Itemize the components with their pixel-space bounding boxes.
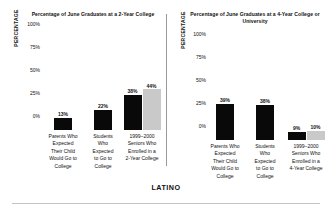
bar-group-left-students: 22% [86, 37, 120, 130]
bar-wrap: 22% [94, 103, 112, 130]
bar-group-left-parents: 13% [46, 37, 80, 130]
bar-wrap: 13% [54, 111, 72, 130]
bar-value-label: 13% [58, 111, 68, 117]
y-tick-left-100: 100% [18, 21, 40, 27]
bar-parents-2yr [54, 118, 72, 130]
panel-divider [166, 14, 167, 166]
chart-panel-2-year-college: Percentage of June Graduates at a 2-Year… [0, 0, 166, 182]
chart-title-left: Percentage of June Graduates at a 2-Year… [26, 11, 160, 18]
chart-title-right: Percentage of June Graduates at a 4-Year… [182, 11, 328, 25]
bar-seniors-enrolled-2yr-secondary [143, 89, 161, 130]
category-label-left-parents: Parents Who Expected Their Child Would G… [42, 133, 84, 170]
category-label-left-seniors: 1999–2000 Seniors Who Enrolled in a 2-Ye… [120, 133, 164, 163]
y-tick-left-75: 75% [18, 44, 40, 50]
bar-seniors-enrolled-2yr [124, 95, 142, 130]
y-tick-left-25: 25% [18, 90, 40, 96]
figure-latino-college-enrollment: Percentage of June Graduates at a 2-Year… [0, 0, 332, 214]
figure-group-label: LATINO [0, 183, 332, 192]
bar-wrap: 38% [124, 88, 142, 130]
plot-area-left: 13% Parents Who Expected Their Child Wou… [44, 37, 162, 130]
bottom-rule [12, 203, 320, 204]
bar-wrap: 44% [143, 83, 161, 130]
bar-students-2yr [94, 110, 112, 131]
bar-value-label: 22% [98, 103, 108, 109]
category-label-left-students: Students Who Expected to Go to College [84, 133, 122, 170]
bar-group-left-seniors: 38% 44% [122, 37, 162, 130]
bar-value-label: 38% [127, 88, 137, 94]
bar-value-label: 44% [146, 83, 156, 89]
y-tick-left-50: 50% [18, 67, 40, 73]
y-tick-left-0: 0% [18, 113, 40, 119]
chart-panel-4-year-college: Percentage of June Graduates at a 4-Year… [166, 0, 332, 182]
